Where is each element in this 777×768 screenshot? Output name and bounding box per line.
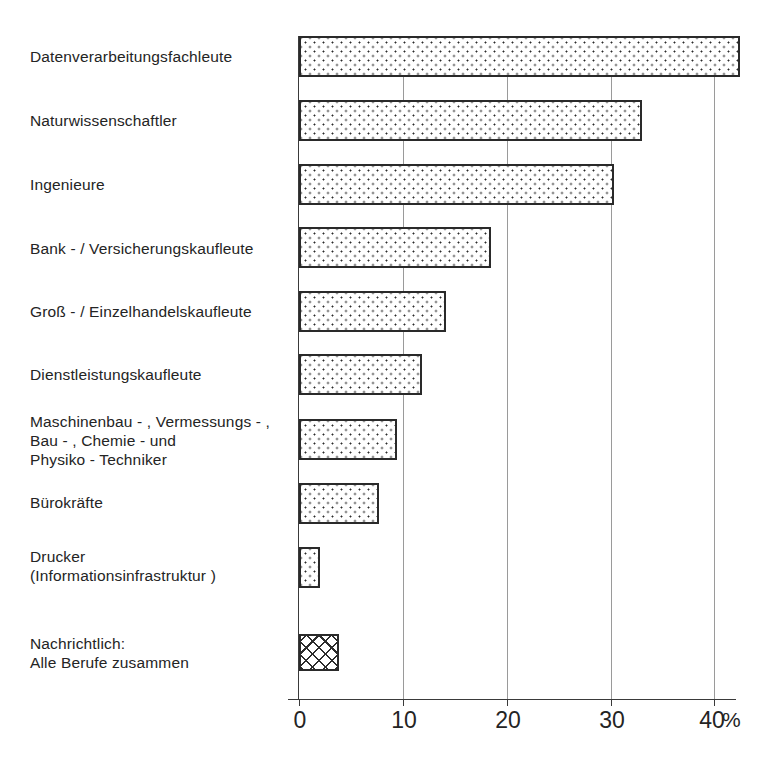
category-label-naturwissenschaftler: Naturwissenschaftler [30, 111, 292, 130]
bar-datenverarbeitungsfachleute [299, 36, 740, 77]
category-label-dienstleistungskaufleute: Dienstleistungskaufleute [30, 365, 292, 384]
x-tick-10 [403, 699, 404, 706]
category-label-ingenieure: Ingenieure [30, 175, 292, 194]
x-tick-label-30: 30 [599, 707, 625, 733]
bar-buerokraefte [299, 483, 379, 524]
bar-ingenieure [299, 164, 614, 205]
x-tick-30 [611, 699, 612, 706]
category-label-alle-berufe-zusammen: Nachrichtlich: Alle Berufe zusammen [30, 634, 292, 672]
category-label-techniker: Maschinenbau - , Vermessungs - , Bau - ,… [30, 412, 292, 469]
category-label-datenverarbeitungsfachleute: Datenverarbeitungsfachleute [30, 47, 292, 66]
x-tick-label-10: 10 [391, 707, 417, 733]
gridline-40 [714, 36, 715, 699]
x-tick-label-20: 20 [495, 707, 521, 733]
category-label-bank-versicherungskaufleute: Bank - / Versicherungskaufleute [30, 239, 292, 258]
bar-chart: 0 10 20 30 40 % Datenverarbeitungsfachle… [0, 0, 777, 768]
bar-techniker [299, 419, 397, 460]
bar-naturwissenschaftler [299, 100, 642, 141]
percent-unit-label: % [722, 708, 741, 732]
x-tick-0 [299, 699, 300, 706]
bar-alle-berufe-zusammen [299, 634, 339, 671]
category-label-gross-einzelhandelskaufleute: Groß - / Einzelhandelskaufleute [30, 302, 292, 321]
category-label-buerokraefte: Bürokräfte [30, 493, 292, 512]
x-tick-40 [714, 699, 715, 706]
category-label-drucker: Drucker (Informationsinfrastruktur ) [30, 547, 292, 585]
x-axis-line [288, 699, 736, 700]
bar-bank-versicherungskaufleute [299, 227, 491, 268]
bar-drucker [299, 547, 320, 588]
x-tick-label-0: 0 [294, 707, 307, 733]
x-tick-label-40: 40 [699, 707, 725, 733]
bar-gross-einzelhandelskaufleute [299, 291, 446, 332]
bar-dienstleistungskaufleute [299, 354, 422, 395]
x-tick-20 [507, 699, 508, 706]
